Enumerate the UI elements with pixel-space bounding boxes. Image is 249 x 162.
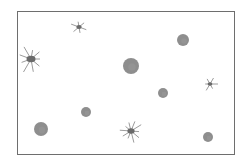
spiky-particle — [205, 78, 218, 90]
round-particle — [81, 107, 91, 117]
particle-scene — [0, 0, 249, 162]
round-particle — [34, 122, 48, 136]
spiky-particle — [120, 121, 141, 142]
round-particle — [203, 132, 213, 142]
round-particle — [177, 34, 189, 46]
spiky-particle — [71, 22, 86, 33]
round-particle — [123, 58, 139, 74]
spiky-particle — [20, 47, 40, 72]
round-particle — [158, 88, 168, 98]
